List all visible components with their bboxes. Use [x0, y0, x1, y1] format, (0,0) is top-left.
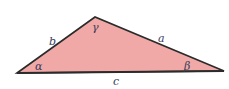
side-c-label: c: [113, 75, 119, 88]
side-a-label: a: [158, 32, 165, 45]
angle-alpha-label: α: [35, 60, 43, 73]
side-b-label: b: [49, 35, 56, 48]
angle-beta-label: β: [183, 60, 190, 73]
angle-gamma-label: γ: [92, 21, 99, 34]
triangle-diagram: γ α β b a c: [0, 0, 229, 89]
